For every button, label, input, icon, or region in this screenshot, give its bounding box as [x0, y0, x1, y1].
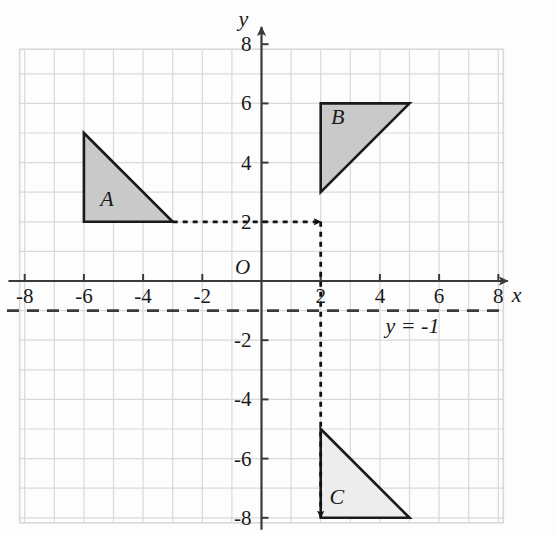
x-axis-name: x: [511, 282, 522, 307]
y-tick-label: 8: [241, 32, 252, 56]
x-tick-label: -2: [194, 284, 212, 308]
y-tick-label: -2: [234, 328, 252, 352]
y-axis-name: y: [237, 6, 249, 31]
y-tick-label: 2: [241, 210, 252, 234]
text-labels: -8-6-4-224688642-2-4-6-8OxyABCy = -1: [16, 6, 522, 530]
x-tick-label: -8: [16, 284, 34, 308]
x-tick-label: 2: [315, 284, 326, 308]
x-tick-label: -6: [75, 284, 93, 308]
coordinate-grid-figure: -8-6-4-224688642-2-4-6-8OxyABCy = -1: [0, 0, 556, 534]
coordinate-plot-svg: -8-6-4-224688642-2-4-6-8OxyABCy = -1: [0, 0, 556, 534]
mirror-line-label: y = -1: [383, 313, 439, 338]
triangle-label-c: C: [330, 484, 345, 509]
triangle-label-a: A: [98, 186, 114, 211]
x-tick-label: 6: [434, 284, 445, 308]
triangle-label-b: B: [331, 104, 344, 129]
y-tick-label: -6: [234, 447, 252, 471]
x-tick-label: 4: [375, 284, 386, 308]
y-tick-label: 6: [241, 91, 252, 115]
y-tick-label: -4: [234, 387, 252, 411]
x-tick-label: -4: [134, 284, 152, 308]
y-tick-label: 4: [241, 151, 252, 175]
x-tick-label: 8: [493, 284, 504, 308]
y-tick-label: -8: [234, 506, 252, 530]
triangle-a: [84, 133, 173, 222]
origin-label: O: [235, 255, 250, 279]
